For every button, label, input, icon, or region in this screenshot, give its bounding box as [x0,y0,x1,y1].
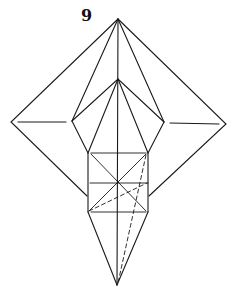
origami-fold-diagram [0,0,238,304]
center-vertical-crease [117,19,118,285]
outer-kite-outline [11,19,226,196]
right-horizontal-crease [170,123,219,124]
lower-point [88,212,148,285]
dashed-fold-lines [89,155,147,283]
